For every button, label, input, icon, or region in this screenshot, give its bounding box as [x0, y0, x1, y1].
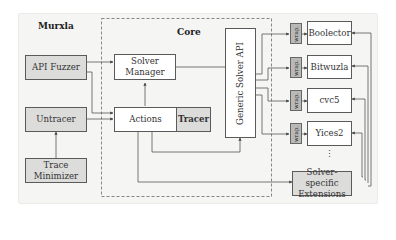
more-solvers-ellipsis: ⋮: [325, 152, 334, 156]
wrap-label: wrap.: [293, 126, 299, 142]
wrapper-yices2: wrap.: [290, 123, 302, 144]
tracer-box: Tracer: [176, 107, 211, 132]
generic-solver-api-label: Generic Solver API: [235, 42, 246, 125]
untracer-label: Untracer: [36, 114, 75, 125]
solver-specific-extensions-box: Solver-specific Extensions: [292, 171, 352, 196]
wrapper-bitwuzla: wrap.: [290, 57, 302, 78]
api-fuzzer-box: API Fuzzer: [25, 55, 87, 80]
actions-label: Actions: [129, 114, 161, 125]
solver-boolector-label: Boolector: [308, 28, 350, 39]
solver-boolector-box: Boolector: [307, 21, 352, 45]
solver-manager-label-2: Manager: [125, 67, 164, 78]
generic-solver-api-box: Generic Solver API: [225, 28, 256, 138]
wrap-label: wrap.: [293, 26, 299, 42]
wrapper-cvc5: wrap.: [290, 90, 302, 111]
solver-bitwuzla-label: Bitwuzla: [311, 62, 349, 73]
trace-minimizer-label-1: Trace: [44, 160, 69, 171]
solver-manager-label-1: Solver: [131, 56, 159, 67]
trace-minimizer-box: Trace Minimizer: [25, 158, 87, 183]
wrap-label: wrap.: [293, 60, 299, 76]
wrap-label: wrap.: [293, 93, 299, 109]
untracer-box: Untracer: [25, 107, 87, 132]
solver-bitwuzla-box: Bitwuzla: [307, 55, 352, 79]
api-fuzzer-label: API Fuzzer: [32, 62, 80, 73]
solver-cvc5-label: cvc5: [320, 95, 340, 106]
actions-box: Actions: [114, 107, 177, 132]
solver-cvc5-box: cvc5: [307, 88, 352, 113]
tracer-label: Tracer: [178, 114, 209, 125]
solver-specific-label-1: Solver-specific: [293, 167, 351, 189]
solver-yices2-label: Yices2: [315, 128, 343, 139]
wrapper-boolector: wrap.: [290, 23, 302, 44]
solver-specific-label-2: Extensions: [298, 189, 345, 200]
solver-manager-box: Solver Manager: [114, 54, 176, 80]
solver-yices2-box: Yices2: [307, 121, 352, 146]
trace-minimizer-label-2: Minimizer: [34, 171, 78, 182]
